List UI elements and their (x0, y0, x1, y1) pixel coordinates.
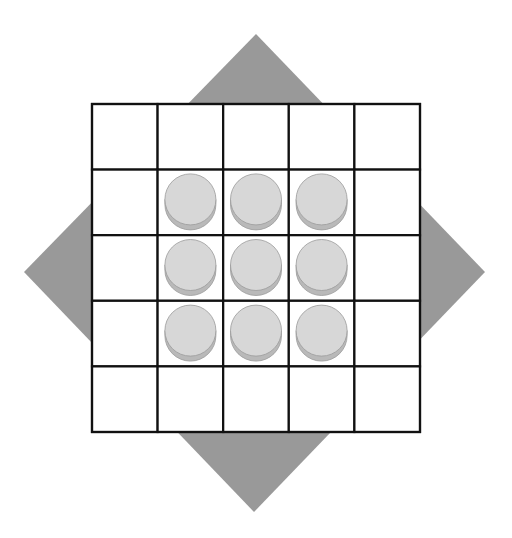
pieces-layer (165, 174, 347, 361)
disc-face (296, 174, 347, 225)
disc-face (165, 305, 216, 356)
disc-face (165, 174, 216, 225)
disc-piece[interactable] (231, 305, 282, 361)
board-cell-r1-c4[interactable] (354, 170, 420, 236)
disc-face (296, 240, 347, 291)
board-cell-r4-c2[interactable] (223, 366, 289, 432)
disc-face (231, 174, 282, 225)
board-cell-r0-c0[interactable] (92, 104, 158, 170)
disc-piece[interactable] (231, 174, 282, 230)
board-cell-r0-c1[interactable] (158, 104, 224, 170)
board-cell-r4-c1[interactable] (158, 366, 224, 432)
board-cell-r4-c0[interactable] (92, 366, 158, 432)
board-cell-r0-c2[interactable] (223, 104, 289, 170)
disc-piece[interactable] (296, 240, 347, 296)
disc-piece[interactable] (165, 174, 216, 230)
disc-face (165, 240, 216, 291)
board-cell-r2-c0[interactable] (92, 235, 158, 301)
disc-piece[interactable] (296, 305, 347, 361)
board-cell-r4-c3[interactable] (289, 366, 355, 432)
board-cell-r0-c4[interactable] (354, 104, 420, 170)
disc-face (231, 305, 282, 356)
disc-face (296, 305, 347, 356)
board-cell-r3-c4[interactable] (354, 301, 420, 367)
board-cell-r0-c3[interactable] (289, 104, 355, 170)
disc-piece[interactable] (231, 240, 282, 296)
disc-piece[interactable] (296, 174, 347, 230)
disc-piece[interactable] (165, 240, 216, 296)
board-cell-r1-c0[interactable] (92, 170, 158, 236)
board-cell-r3-c0[interactable] (92, 301, 158, 367)
board-cell-r4-c4[interactable] (354, 366, 420, 432)
game-board-scene (0, 0, 512, 538)
disc-piece[interactable] (165, 305, 216, 361)
board-cell-r2-c4[interactable] (354, 235, 420, 301)
disc-face (231, 240, 282, 291)
